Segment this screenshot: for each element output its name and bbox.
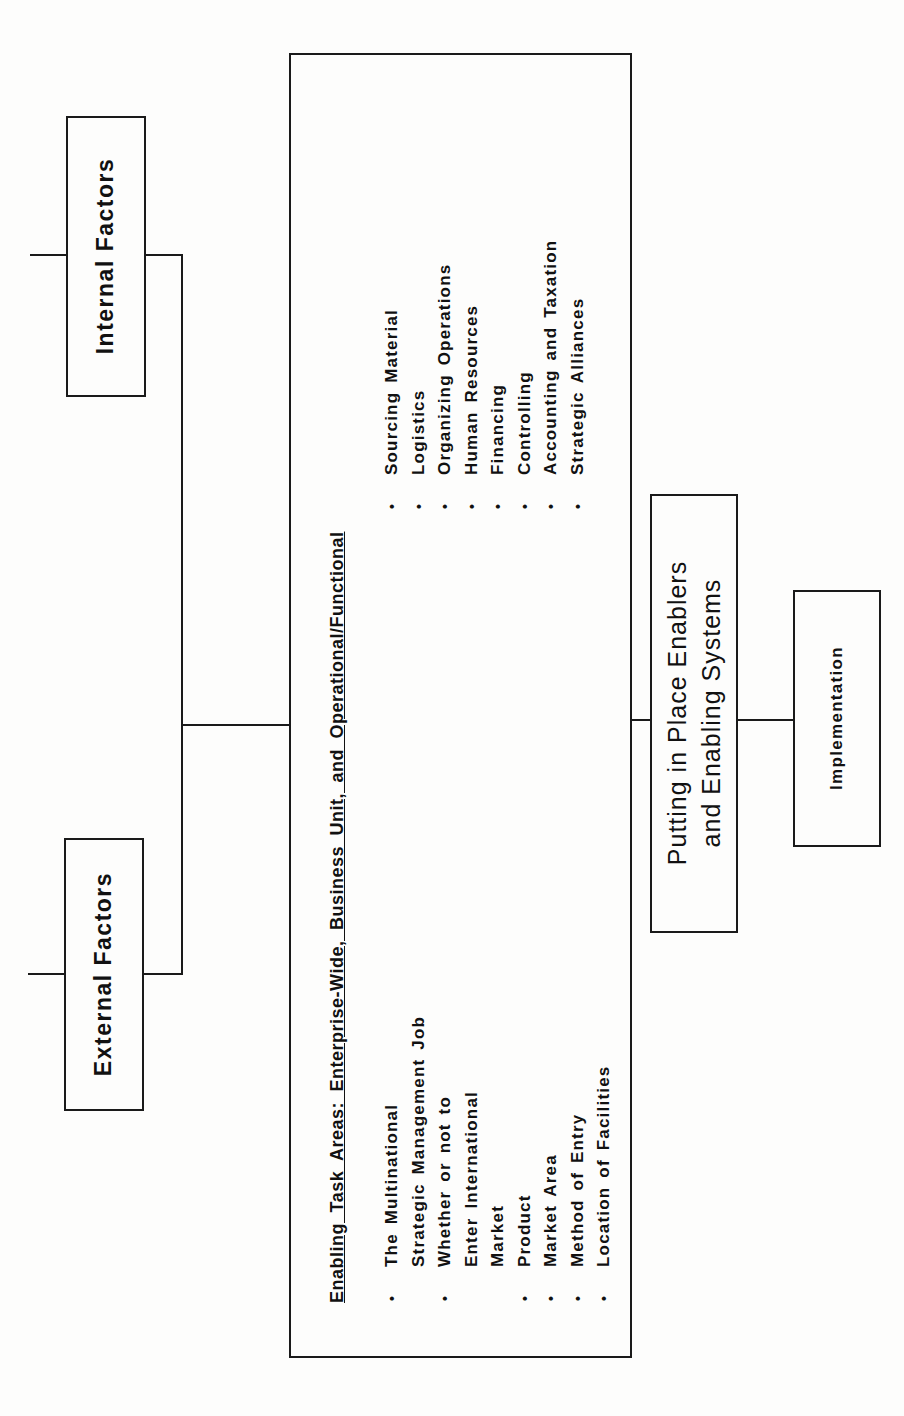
external-factors-label-frame: External Factors [66, 840, 141, 1108]
enablers-to-implementation-line [737, 719, 794, 721]
list-item: •The Multinational [379, 1016, 406, 1301]
list-item: Market [485, 1016, 512, 1301]
factors-trunk-line [181, 254, 183, 975]
list-item: •Method of Entry [565, 1016, 592, 1301]
internal-factors-label: Internal Factors [92, 158, 119, 355]
putting-in-place-line1: Putting in Place Enablers [660, 561, 694, 865]
list-item: •Sourcing Material [379, 240, 406, 509]
implementation-box: Implementation [793, 590, 881, 847]
list-item: •Product [512, 1016, 539, 1301]
list-item: •Whether or not to [432, 1016, 459, 1301]
bullet-icon: • [406, 475, 433, 509]
bullet-icon: • [379, 475, 406, 509]
list-item: •Accounting and Taxation [538, 240, 565, 509]
bullet-icon: • [512, 475, 539, 509]
bullet-icon: • [485, 475, 512, 509]
list-item: Strategic Management Job [406, 1016, 433, 1301]
enabling-task-areas-content: Enabling Task Areas: Enterprise-Wide, Bu… [291, 55, 629, 1355]
bullet-icon: • [432, 1267, 459, 1301]
internal-factors-box: Internal Factors [66, 116, 146, 397]
list-item: •Human Resources [459, 240, 486, 509]
bullet-icon: • [459, 475, 486, 509]
bullet-icon [485, 1267, 512, 1301]
implementation-label: Implementation [827, 646, 847, 790]
bullet-icon: • [538, 1267, 565, 1301]
list-item: •Market Area [538, 1016, 565, 1301]
putting-in-place-enablers-label-frame: Putting in Place Enablers and Enabling S… [652, 496, 735, 930]
task-areas-left-list: •The Multinational Strategic Management … [379, 1016, 618, 1301]
list-item: •Strategic Alliances [565, 240, 592, 509]
internal-factors-label-frame: Internal Factors [68, 118, 143, 394]
external-factors-input-line [28, 973, 65, 975]
bullet-icon: • [432, 475, 459, 509]
bullet-icon: • [379, 1267, 406, 1301]
task-areas-to-enablers-line [631, 719, 651, 721]
internal-factors-input-line [30, 254, 67, 256]
bullet-icon: • [591, 1267, 618, 1301]
list-item: •Controlling [512, 240, 539, 509]
external-factors-box: External Factors [64, 838, 144, 1111]
external-factors-output-line [143, 973, 183, 975]
list-item: Enter International [459, 1016, 486, 1301]
bullet-icon: • [538, 475, 565, 509]
task-areas-right-list: •Sourcing Material •Logistics •Organizin… [379, 240, 591, 509]
implementation-label-frame: Implementation [795, 592, 878, 844]
bullet-icon: • [565, 475, 592, 509]
internal-factors-output-line [145, 254, 183, 256]
external-factors-label: External Factors [90, 872, 117, 1076]
list-item: •Organizing Operations [432, 240, 459, 509]
putting-in-place-enablers-box: Putting in Place Enablers and Enabling S… [650, 494, 738, 933]
bullet-icon [459, 1267, 486, 1301]
enabling-task-areas-box: Enabling Task Areas: Enterprise-Wide, Bu… [289, 53, 632, 1358]
bullet-icon [406, 1267, 433, 1301]
factors-to-task-areas-line [182, 724, 290, 726]
enabling-task-areas-heading: Enabling Task Areas: Enterprise-Wide, Bu… [327, 532, 348, 1303]
bullet-icon: • [512, 1267, 539, 1301]
list-item: •Location of Facilities [591, 1016, 618, 1301]
list-item: •Financing [485, 240, 512, 509]
putting-in-place-line2: and Enabling Systems [694, 579, 728, 848]
bullet-icon: • [565, 1267, 592, 1301]
list-item: •Logistics [406, 240, 433, 509]
